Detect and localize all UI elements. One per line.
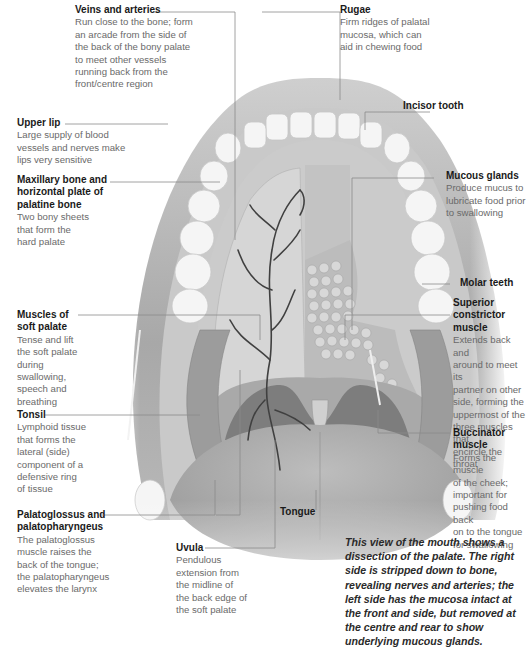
label-muscles-soft-palate: Muscles of soft palate Tense and lift th… [17, 309, 79, 408]
label-uvula: Uvula Pendulous extension from the midli… [176, 542, 256, 616]
label-upper-lip: Upper lip Large supply of blood vessels … [17, 117, 137, 167]
figure-caption: This view of the mouth shows a dissectio… [345, 535, 525, 649]
label-palatoglossus: Palatoglossus and palatopharyngeus The p… [17, 509, 127, 596]
label-title: Veins and arteries [75, 4, 255, 16]
label-maxillary-bone: Maxillary bone and horizontal plate of p… [17, 174, 137, 248]
label-veins-and-arteries: Veins and arteries Run close to the bone… [75, 4, 255, 91]
label-rugae: Rugae Firm ridges of palatal mucosa, whi… [340, 4, 480, 54]
label-buccinator-muscle: Buccinator muscle Forms the muscle of th… [453, 427, 527, 551]
label-mucous-glands: Mucous glands Produce mucus to lubricate… [446, 170, 527, 220]
label-incisor-tooth: Incisor tooth [403, 100, 464, 112]
label-molar-teeth: Molar teeth [460, 277, 513, 289]
label-tonsil: Tonsil Lymphoid tissue that forms the la… [17, 409, 97, 496]
label-tongue: Tongue [280, 506, 315, 518]
